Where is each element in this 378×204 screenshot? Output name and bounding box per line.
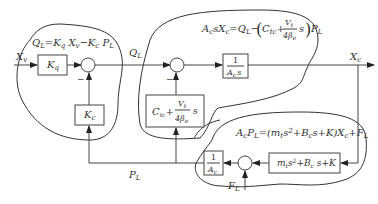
svg-text:Ctc+: Ctc+ bbox=[262, 23, 285, 36]
pressure-label: PL bbox=[128, 169, 141, 182]
output-label: Xc bbox=[349, 51, 361, 64]
summing-junction-force bbox=[238, 156, 252, 170]
flow-equation: QL=Kq Xv−Kc PL bbox=[32, 37, 114, 50]
summing-junction-continuity bbox=[170, 58, 184, 72]
leakage-s: s bbox=[193, 106, 198, 116]
continuity-equation: AcsXc=QL− ( Ctc+ Vt 4βe s ) PL bbox=[201, 18, 323, 41]
summing-junction-flow bbox=[81, 58, 95, 72]
output-feedback-line bbox=[341, 65, 358, 163]
minus-sign: − bbox=[166, 74, 174, 84]
pressure-feedback-line bbox=[89, 126, 204, 163]
block-diagram: QL=Kq Xv−Kc PL AcsXc=QL− ( Ctc+ Vt 4βe s… bbox=[0, 0, 378, 204]
integrator-numerator: 1 bbox=[233, 56, 238, 65]
minus-sign: − bbox=[77, 74, 85, 84]
disturbance-label: FL bbox=[227, 180, 240, 193]
force-equation-region bbox=[195, 112, 366, 187]
svg-text:s: s bbox=[299, 23, 304, 34]
area-inverse-numerator: 1 bbox=[211, 153, 216, 162]
svg-text:Vt: Vt bbox=[285, 18, 294, 28]
svg-text:PL: PL bbox=[310, 23, 323, 36]
input-label: Xv bbox=[15, 51, 27, 64]
force-equation: AcPL=(mts2+Bcs+K)Xc+FL bbox=[235, 127, 369, 140]
svg-text:4βe: 4βe bbox=[282, 31, 297, 41]
flow-label: QL bbox=[129, 47, 142, 60]
svg-text:AcsXc=QL−: AcsXc=QL− bbox=[201, 23, 259, 36]
